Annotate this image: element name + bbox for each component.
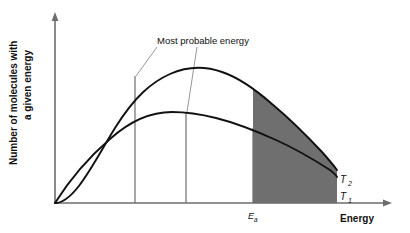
activation-energy-label-subscript: a bbox=[254, 216, 258, 223]
x-axis-title: Energy bbox=[340, 213, 374, 224]
maxwell-boltzmann-distribution-chart: Number of molecules with a given energy … bbox=[0, 0, 410, 233]
y-axis-title-line-1: Number of molecules with bbox=[8, 41, 19, 165]
y-axis-title-line-2: a given energy bbox=[22, 50, 33, 120]
curve-label-t1-subscript: 1 bbox=[348, 197, 352, 204]
curve-label-t2-subscript: 2 bbox=[347, 180, 352, 187]
curve-label-t1-base: T bbox=[340, 191, 347, 202]
curve-label-t2-base: T bbox=[340, 174, 347, 185]
most-probable-energy-label: Most probable energy bbox=[157, 35, 249, 46]
